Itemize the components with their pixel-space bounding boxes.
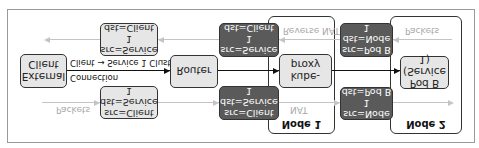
router-box: Router (170, 55, 218, 88)
external-client-box: External Client (20, 54, 67, 88)
return-hop-1-src: src=Pod B (342, 46, 391, 57)
return-arrowhead-4 (393, 37, 399, 43)
return-hop-3: src=Service 1 dst=Client (100, 23, 158, 56)
nat-label: NAT (290, 105, 308, 115)
return-hop-1: src=Pod B dst=Node 1 (340, 23, 393, 57)
forward-hop-1-dst: dst=Service 1 (100, 86, 158, 108)
forward-hop-3-dst: dst=Pod B (342, 87, 391, 98)
forward-hop-3-src: src=Node 1 (341, 98, 392, 120)
forward-hop-1: src=Client dst=Service 1 (100, 86, 158, 119)
return-hop-3-dst: dst=Client (104, 23, 154, 34)
connection-label-line2: Connection (70, 73, 118, 83)
return-packets-label: Packets (405, 26, 439, 36)
return-arrowhead-3 (279, 37, 285, 43)
diagram-canvas: Node 1 Node 2 Packets NAT Packets Revers… (0, 0, 479, 148)
forward-hop-2-src: src=Client (224, 109, 273, 120)
reverse-nat-label: Reverse NAT (283, 26, 340, 36)
return-hop-2-dst: dst=Client (224, 24, 274, 35)
return-arrowhead-2 (158, 37, 164, 43)
forward-hop-3: src=Node 1 dst=Pod B (340, 87, 393, 120)
pod-b-box: Pod B (Service 1) (400, 56, 449, 89)
return-hop-2-src: src=Service 1 (220, 35, 278, 57)
return-arrowhead-1 (44, 37, 50, 43)
forward-hop-2: src=Client dst=Service 1 (219, 86, 279, 120)
forward-hop-1-src: src=Client (104, 108, 153, 119)
return-hop-1-dst: dst=Node 1 (341, 24, 392, 46)
forward-packets-label: Packets (56, 105, 90, 115)
return-hop-2: src=Service 1 dst=Client (219, 23, 279, 57)
node-1-label: Node 1 (269, 119, 334, 130)
kube-proxy-box: kube-proxy (279, 54, 332, 88)
node-2-label: Node 2 (391, 119, 461, 130)
forward-arrowhead-4 (448, 100, 454, 106)
connection-line (66, 70, 400, 71)
return-hop-3-src: src=Service 1 (101, 34, 158, 56)
forward-hop-2-dst: dst=Service 1 (220, 87, 278, 109)
